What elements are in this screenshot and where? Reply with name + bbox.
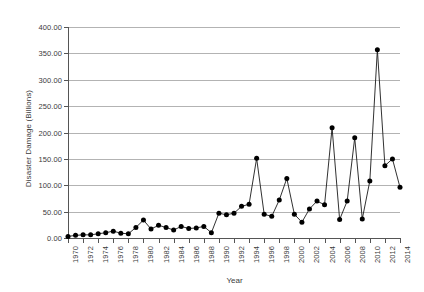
x-tick-label: 1978: [131, 246, 140, 263]
y-tick-label: 400.00: [0, 23, 62, 32]
x-tick-mark: [174, 238, 175, 243]
x-axis-title: Year: [68, 276, 401, 285]
data-point-marker: [194, 225, 199, 230]
y-tick-label: 350.00: [0, 49, 62, 58]
data-point-marker: [345, 199, 350, 204]
data-point-marker: [367, 179, 372, 184]
x-tick-mark: [128, 238, 129, 243]
x-tick-mark: [264, 238, 265, 243]
x-tick-mark: [294, 238, 295, 243]
data-point-marker: [352, 135, 357, 140]
y-tick-label: 200.00: [0, 128, 62, 137]
x-tick-label: 2010: [373, 246, 382, 263]
y-tick-label: 50.00: [0, 207, 62, 216]
gridline: [68, 185, 400, 186]
x-tick-mark: [279, 238, 280, 243]
x-tick-label: 2012: [388, 246, 397, 263]
data-point-marker: [269, 214, 274, 219]
data-point-marker: [96, 231, 101, 236]
data-point-marker: [118, 231, 123, 236]
data-point-marker: [111, 229, 116, 234]
gridline: [68, 106, 400, 107]
data-point-marker: [126, 231, 131, 236]
data-point-marker: [156, 223, 161, 228]
x-tick-label: 1972: [86, 246, 95, 263]
data-point-marker: [382, 163, 387, 168]
x-tick-mark: [385, 238, 386, 243]
y-tick-label: 150.00: [0, 154, 62, 163]
y-axis-line: [68, 27, 69, 239]
gridline: [68, 133, 400, 134]
data-point-marker: [360, 217, 365, 222]
data-point-marker: [133, 225, 138, 230]
data-point-marker: [81, 232, 86, 237]
data-point-marker: [247, 202, 252, 207]
x-tick-label: 1992: [237, 246, 246, 263]
x-tick-mark: [98, 238, 99, 243]
x-tick-label: 1984: [177, 246, 186, 263]
x-tick-label: 1994: [252, 246, 261, 263]
data-point-marker: [239, 204, 244, 209]
data-point-marker: [149, 227, 154, 232]
x-tick-mark: [400, 238, 401, 243]
x-tick-mark: [249, 238, 250, 243]
x-tick-mark: [370, 238, 371, 243]
x-tick-mark: [204, 238, 205, 243]
data-point-marker: [375, 47, 380, 52]
series-line: [68, 50, 400, 237]
data-point-marker: [88, 232, 93, 237]
data-point-marker: [179, 224, 184, 229]
x-tick-label: 1976: [116, 246, 125, 263]
gridline: [68, 27, 400, 28]
data-point-marker: [201, 224, 206, 229]
x-tick-mark: [309, 238, 310, 243]
data-point-marker: [209, 230, 214, 235]
x-tick-label: 2006: [343, 246, 352, 263]
x-tick-mark: [355, 238, 356, 243]
x-tick-label: 1986: [192, 246, 201, 263]
x-tick-label: 1982: [162, 246, 171, 263]
y-tick-label: 300.00: [0, 75, 62, 84]
gridline: [68, 212, 400, 213]
data-point-marker: [337, 217, 342, 222]
data-point-marker: [299, 220, 304, 225]
x-tick-label: 1990: [222, 246, 231, 263]
y-tick-label: 0.00: [0, 234, 62, 243]
data-point-marker: [164, 225, 169, 230]
gridline: [68, 53, 400, 54]
data-point-marker: [224, 212, 229, 217]
x-tick-mark: [325, 238, 326, 243]
data-point-marker: [277, 198, 282, 203]
data-point-marker: [141, 218, 146, 223]
data-point-marker: [330, 125, 335, 130]
x-tick-mark: [113, 238, 114, 243]
x-tick-label: 2014: [403, 246, 412, 263]
data-point-marker: [171, 228, 176, 233]
data-point-marker: [284, 176, 289, 181]
x-tick-label: 1988: [207, 246, 216, 263]
y-tick-label: 250.00: [0, 102, 62, 111]
x-tick-mark: [143, 238, 144, 243]
data-point-marker: [103, 230, 108, 235]
x-tick-label: 1974: [101, 246, 110, 263]
disaster-damage-line-chart: Disaster Damage (Billions) Year 0.0050.0…: [0, 0, 424, 292]
x-tick-label: 2000: [297, 246, 306, 263]
x-tick-label: 2002: [312, 246, 321, 263]
x-tick-mark: [159, 238, 160, 243]
data-point-marker: [315, 199, 320, 204]
x-tick-label: 1970: [71, 246, 80, 263]
x-tick-label: 1980: [146, 246, 155, 263]
x-tick-mark: [189, 238, 190, 243]
x-tick-mark: [234, 238, 235, 243]
data-point-marker: [322, 202, 327, 207]
gridline: [68, 159, 400, 160]
data-point-marker: [186, 226, 191, 231]
x-tick-mark: [83, 238, 84, 243]
x-tick-label: 1998: [282, 246, 291, 263]
y-tick-label: 100.00: [0, 181, 62, 190]
x-tick-mark: [219, 238, 220, 243]
x-tick-label: 2008: [358, 246, 367, 263]
x-tick-label: 2004: [328, 246, 337, 263]
gridline: [68, 80, 400, 81]
x-tick-mark: [68, 238, 69, 243]
